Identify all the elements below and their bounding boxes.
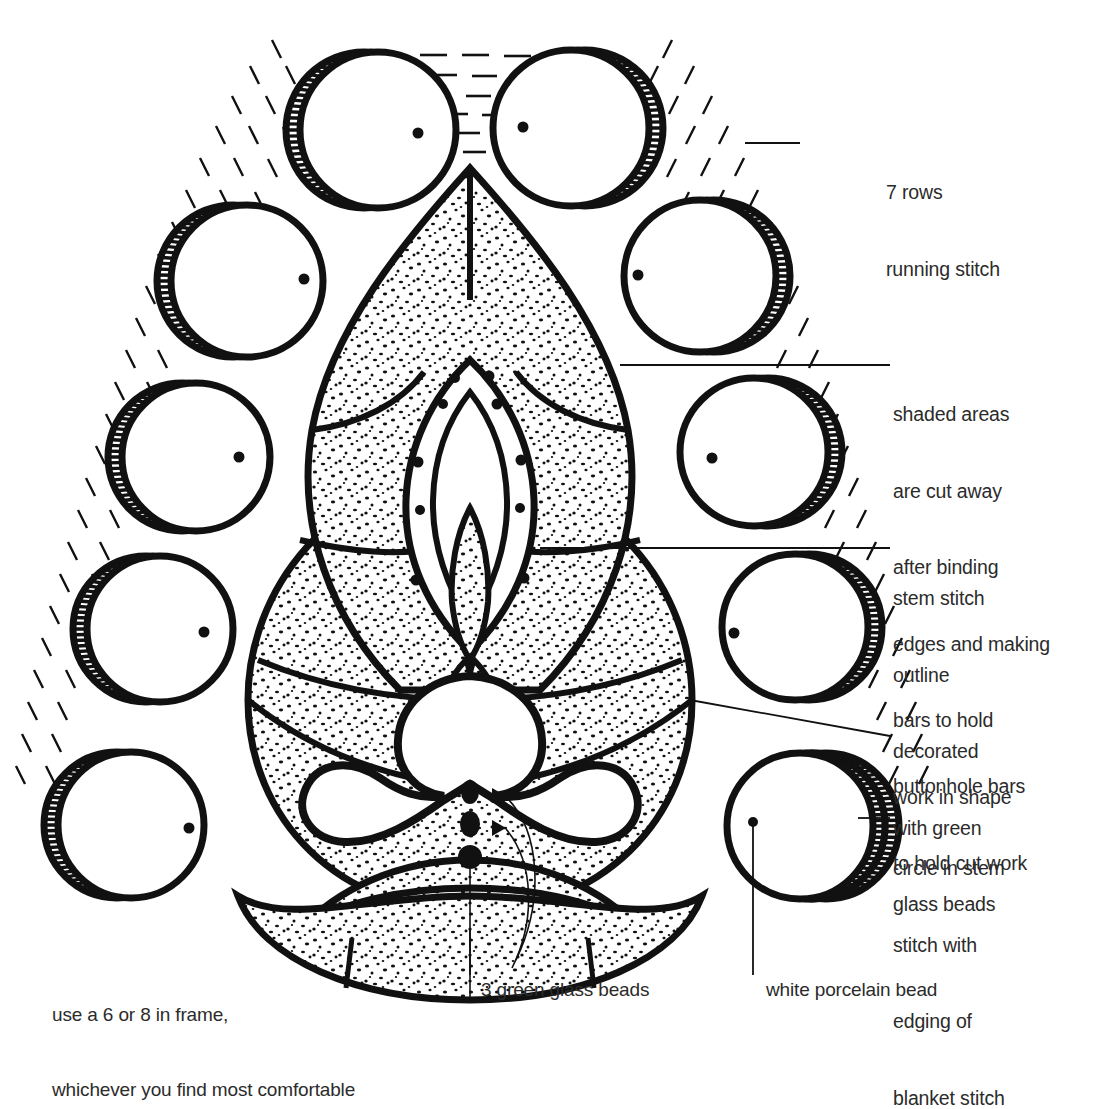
- annotation-circle-stem-line4: blanket stitch: [893, 1086, 1005, 1109]
- annotation-circle-stem-line3: edging of: [893, 1009, 1005, 1035]
- bead-left-3: [106, 383, 270, 531]
- bead-left-2: [155, 205, 323, 357]
- bead-dot: [729, 628, 740, 639]
- bead-dot: [413, 128, 424, 139]
- bead-stem-stitch-circle: [87, 556, 233, 702]
- note-frame-line2: whichever you find most comfortable: [52, 1077, 355, 1102]
- bead-dot: [299, 274, 310, 285]
- bead-dot: [184, 823, 195, 834]
- bead-top-right: [493, 50, 665, 206]
- annotation-shaded-areas-line1: shaded areas: [893, 402, 1050, 428]
- bead-stem-stitch-circle: [680, 378, 828, 526]
- bead-left-5: [42, 752, 204, 898]
- bead-left-4: [71, 556, 233, 702]
- bead-stem-stitch-circle: [300, 52, 456, 208]
- bead-stem-stitch-circle: [624, 200, 776, 352]
- bead-dot: [633, 270, 644, 281]
- bead-dot: [707, 453, 718, 464]
- porcelain-bead-dot: [748, 817, 758, 827]
- bead-right-2: [624, 200, 792, 352]
- bead-stem-stitch-circle: [493, 50, 649, 206]
- annotation-running-stitch-line2: running stitch: [886, 257, 1000, 283]
- annotation-circle-stem-stitch: circle in stem stitch with edging of bla…: [893, 805, 1005, 1109]
- annotation-buttonhole-bars-line1: buttonhole bars: [893, 774, 1027, 800]
- bead-stem-stitch-circle: [58, 752, 204, 898]
- annotation-stem-stitch-line2: outline: [893, 663, 995, 689]
- green-glass-bead-markers: [458, 780, 482, 869]
- bead-right-4: [722, 554, 884, 700]
- bead-top-left: [284, 52, 456, 208]
- bead-dot: [518, 122, 529, 133]
- bead-stem-stitch-circle: [122, 383, 270, 531]
- annotation-running-stitch-line1: 7 rows: [886, 180, 1000, 206]
- annotation-circle-stem-line2: stitch with: [893, 933, 1005, 959]
- note-frame-line1: use a 6 or 8 in frame,: [52, 1002, 355, 1027]
- annotation-circle-stem-line1: circle in stem: [893, 856, 1005, 882]
- note-green-beads: 3 green glass beads: [481, 977, 649, 1002]
- annotation-running-stitch: 7 rows running stitch: [886, 129, 1000, 308]
- note-frame: use a 6 or 8 in frame, whichever you fin…: [52, 952, 355, 1109]
- bead-dot: [199, 627, 210, 638]
- bead-dot: [234, 452, 245, 463]
- note-porcelain-bead: white porcelain bead: [766, 977, 937, 1002]
- bead-stem-stitch-circle: [722, 554, 868, 700]
- annotation-stem-stitch-line1: stem stitch: [893, 586, 995, 612]
- bead-right-3: [680, 378, 844, 526]
- annotation-shaded-areas-line2: are cut away: [893, 479, 1050, 505]
